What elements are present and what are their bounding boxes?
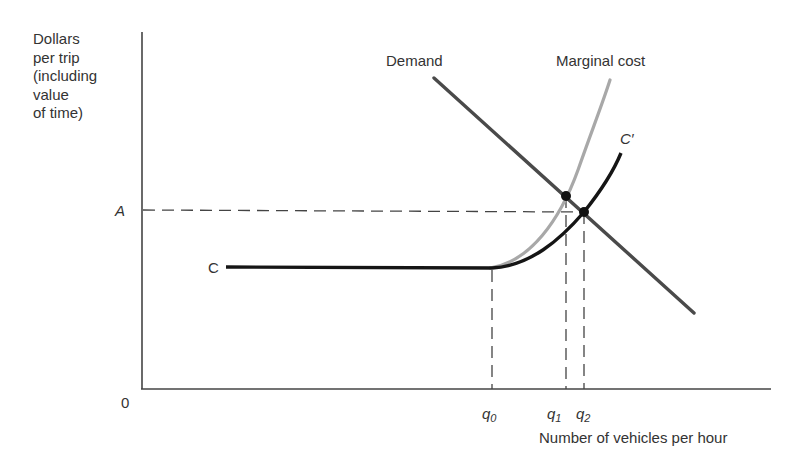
q1-label: q1 bbox=[547, 404, 561, 428]
q2-label: q2 bbox=[576, 404, 590, 428]
dashed-guides bbox=[143, 196, 584, 389]
c-label: C bbox=[208, 258, 219, 277]
marginal-cost-label: Marginal cost bbox=[556, 51, 645, 70]
demand-label: Demand bbox=[386, 51, 443, 70]
origin-label: 0 bbox=[121, 393, 129, 412]
marginal-cost-curve bbox=[490, 80, 610, 268]
a-tick-label: A bbox=[115, 201, 125, 220]
chart-canvas bbox=[0, 0, 798, 474]
q0-label: q0 bbox=[482, 404, 496, 428]
a-guide bbox=[143, 210, 584, 212]
x-axis-label: Number of vehicles per hour bbox=[539, 428, 727, 447]
point-q1 bbox=[561, 191, 571, 201]
c-prime-label: C′ bbox=[620, 129, 634, 148]
point-q2 bbox=[579, 207, 589, 217]
